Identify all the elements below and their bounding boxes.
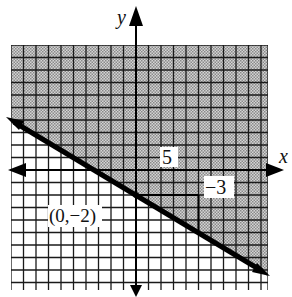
x-axis-left-arrow-icon	[8, 163, 26, 177]
y-axis-label: y	[115, 6, 126, 29]
y-axis-down-arrow-icon	[130, 285, 142, 297]
intercept-point	[133, 192, 139, 198]
rise-label: −3	[205, 176, 226, 198]
intercept-label: (0,−2)	[49, 205, 96, 227]
x-axis-label: x	[278, 145, 288, 167]
inequality-graph: y x 5 −3 (0,−2)	[0, 0, 292, 297]
run-label: 5	[162, 146, 172, 168]
y-axis-up-arrow-icon	[129, 6, 143, 26]
